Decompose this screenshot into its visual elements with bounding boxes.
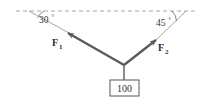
weight-value: 100 <box>117 83 132 94</box>
force-label-f1-group: F 1 <box>52 37 63 51</box>
force-label-f2-subscript: 2 <box>165 48 169 56</box>
left-angle-degree-symbol: ° <box>52 14 55 20</box>
right-angle-label-group: 45 ° <box>156 17 172 29</box>
force-label-f1-symbol: F <box>52 37 58 48</box>
right-angle-arc <box>172 11 177 21</box>
force-label-f2-group: F 2 <box>158 42 169 56</box>
force-diagram-canvas: 30 ° 45 ° F 1 F 2 <box>0 0 204 105</box>
force-label-f1-subscript: 1 <box>59 43 63 51</box>
right-angle-degree-symbol: ° <box>169 17 172 23</box>
force-vector-f2 <box>124 40 156 65</box>
right-angle-value: 45 <box>156 18 166 28</box>
force-diagram-figure: 30 ° 45 ° F 1 F 2 <box>0 0 204 105</box>
force-label-f2-symbol: F <box>158 42 164 53</box>
left-angle-value: 30 <box>39 15 49 25</box>
force-vector-f1 <box>68 33 124 65</box>
